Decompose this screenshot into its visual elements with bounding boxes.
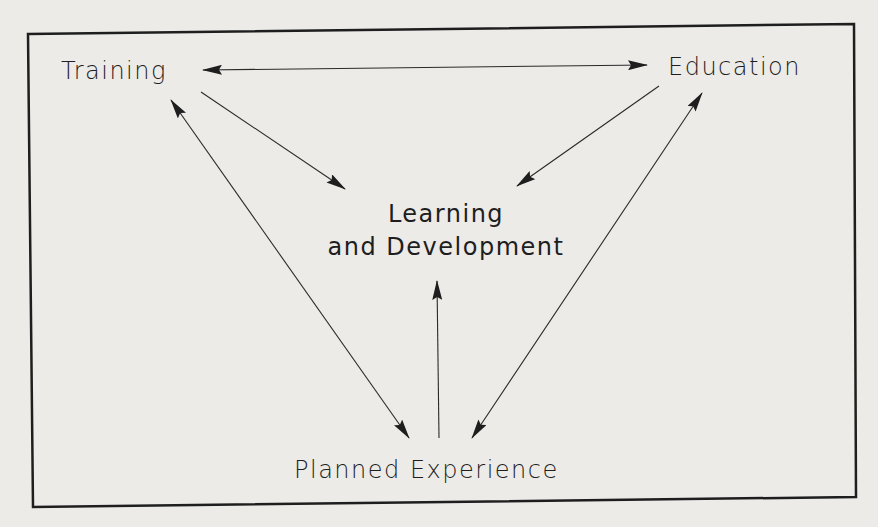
node-learning-development: Learning and Development — [296, 198, 596, 264]
node-planned-experience: Planned Experience — [294, 458, 559, 482]
arrow-planned-to-learning — [437, 281, 439, 438]
arrow-education-to-learning — [517, 86, 659, 186]
node-learning-line1: Learning — [296, 198, 596, 231]
arrow-training-education — [203, 65, 647, 70]
diagram-border — [28, 24, 856, 507]
arrow-training-to-learning — [201, 92, 345, 189]
arrow-planned-training — [171, 100, 409, 438]
node-education: Education — [668, 55, 801, 79]
arrow-planned-education — [472, 93, 702, 438]
node-learning-line2: and Development — [296, 231, 596, 264]
node-training: Training — [61, 59, 167, 83]
